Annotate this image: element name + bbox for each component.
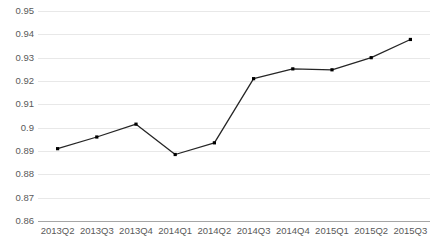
plot-area (38, 11, 430, 221)
x-axis-tick-label: 2014Q2 (197, 226, 231, 236)
data-point-marker (370, 56, 373, 59)
x-axis-tick-label: 2013Q2 (41, 226, 75, 236)
data-point-marker (56, 147, 59, 150)
x-axis-tick-label: 2015Q2 (354, 226, 388, 236)
x-axis-tick-label: 2014Q4 (276, 226, 310, 236)
data-point-marker (134, 123, 137, 126)
y-axis-tick-label: 0.9 (0, 123, 34, 133)
y-axis-tick-label: 0.89 (0, 146, 34, 156)
y-axis: 0.950.940.930.920.910.90.890.880.870.86 (0, 11, 34, 221)
x-axis-tick-label: 2015Q3 (393, 226, 427, 236)
data-point-marker (95, 135, 98, 138)
data-point-marker (213, 141, 216, 144)
y-axis-tick-label: 0.88 (0, 170, 34, 180)
x-axis: 2013Q22013Q32013Q42014Q12014Q22014Q32014… (38, 226, 430, 242)
x-axis-tick-label: 2014Q3 (237, 226, 271, 236)
y-axis-tick-label: 0.93 (0, 53, 34, 63)
data-point-marker (291, 67, 294, 70)
y-axis-tick-label: 0.92 (0, 76, 34, 86)
x-axis-tick-label: 2015Q1 (315, 226, 349, 236)
y-axis-tick-label: 0.91 (0, 100, 34, 110)
data-point-marker (252, 77, 255, 80)
y-axis-tick-label: 0.95 (0, 6, 34, 16)
x-axis-tick-label: 2013Q3 (80, 226, 114, 236)
y-axis-tick-label: 0.87 (0, 193, 34, 203)
x-axis-tick-label: 2014Q1 (158, 226, 192, 236)
data-point-marker (174, 153, 177, 156)
series-line (58, 39, 411, 154)
y-axis-tick-label: 0.94 (0, 30, 34, 40)
x-axis-tick-label: 2013Q4 (119, 226, 153, 236)
x-axis-line (38, 221, 430, 222)
data-point-marker (330, 68, 333, 71)
line-chart: 0.950.940.930.920.910.90.890.880.870.86 … (0, 0, 437, 250)
y-axis-tick-label: 0.86 (0, 216, 34, 226)
data-point-marker (409, 38, 412, 41)
data-series-line (38, 11, 430, 221)
